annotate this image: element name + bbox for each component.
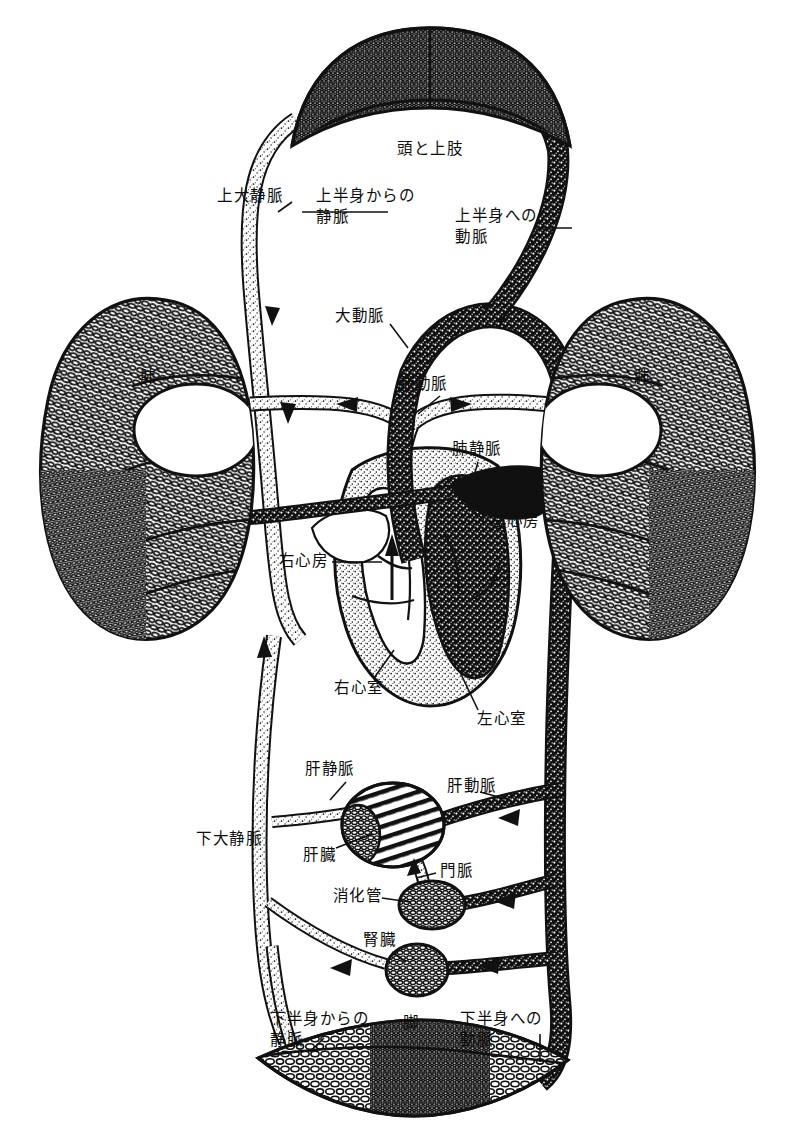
label-pulmonary-artery: 肺動脈 [398,374,448,394]
label-artery-to-upper-body: 上半身への 動脈 [455,206,538,248]
label-vein-from-lower-body: 下半身からの 静脈 [270,1009,369,1051]
kidney [386,944,448,996]
label-left-ventricle: 左心室 [477,709,527,729]
label-hepatic-vein: 肝静脈 [305,759,355,779]
label-pulmonary-vein: 肺静脈 [452,439,502,459]
label-right-ventricle: 右心室 [334,678,384,698]
label-lung-right: 肺 [634,367,651,387]
label-liver: 肝臓 [303,845,336,865]
label-left-atrium: 左心房 [490,511,540,531]
label-right-atrium: 右心房 [279,551,329,571]
label-head-and-upper-limbs: 頭と上肢 [397,139,463,159]
label-aorta: 大動脈 [335,306,385,326]
circulatory-diagram-svg [0,0,795,1141]
label-hepatic-artery: 肝動脈 [447,776,497,796]
label-inferior-vena-cava: 下大静脈 [196,829,262,849]
label-digestive-tract: 消化管 [333,886,383,906]
label-superior-vena-cava: 上大静脈 [217,186,283,206]
label-kidney: 腎臓 [363,930,396,950]
circulatory-system-figure: 頭と上肢 上大静脈 上半身からの 静脈 上半身への 動脈 大動脈 肺動脈 肺静脈… [0,0,795,1141]
label-vein-from-upper-body: 上半身からの 静脈 [316,186,415,228]
digestive-tract [399,881,465,929]
label-portal-vein: 門脈 [440,861,473,881]
label-artery-to-lower-body: 下半身への 動脈 [460,1009,543,1051]
label-leg: 脚 [403,1013,420,1033]
label-lung-left: 肺 [140,367,157,387]
